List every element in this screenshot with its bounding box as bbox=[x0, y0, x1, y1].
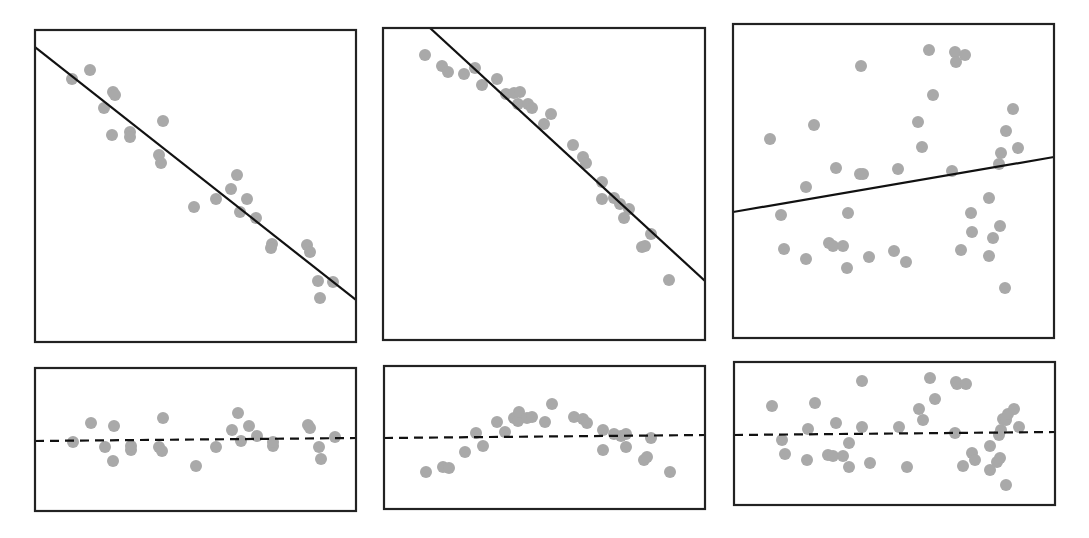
data-point bbox=[210, 441, 222, 453]
data-point bbox=[188, 201, 200, 213]
data-point bbox=[841, 262, 853, 274]
data-point bbox=[960, 378, 972, 390]
data-point bbox=[443, 462, 455, 474]
data-point bbox=[927, 89, 939, 101]
data-point bbox=[957, 460, 969, 472]
data-point bbox=[987, 232, 999, 244]
data-point bbox=[856, 375, 868, 387]
data-point bbox=[125, 440, 137, 452]
data-point bbox=[863, 251, 875, 263]
data-point bbox=[67, 436, 79, 448]
data-point bbox=[641, 451, 653, 463]
data-point bbox=[491, 416, 503, 428]
data-point bbox=[837, 240, 849, 252]
data-point bbox=[232, 407, 244, 419]
data-point bbox=[108, 420, 120, 432]
data-point bbox=[526, 411, 538, 423]
data-point bbox=[639, 240, 651, 252]
data-point bbox=[917, 414, 929, 426]
data-point bbox=[842, 207, 854, 219]
data-point bbox=[620, 428, 632, 440]
data-point bbox=[809, 397, 821, 409]
data-point bbox=[1000, 479, 1012, 491]
data-point bbox=[539, 416, 551, 428]
data-point bbox=[458, 68, 470, 80]
data-point bbox=[226, 424, 238, 436]
data-point bbox=[1007, 103, 1019, 115]
data-point bbox=[999, 282, 1011, 294]
data-point bbox=[251, 430, 263, 442]
data-point bbox=[955, 244, 967, 256]
data-point bbox=[155, 157, 167, 169]
data-point bbox=[477, 440, 489, 452]
data-point bbox=[265, 242, 277, 254]
data-point bbox=[984, 440, 996, 452]
data-point bbox=[1000, 125, 1012, 137]
data-point bbox=[916, 141, 928, 153]
data-point bbox=[775, 209, 787, 221]
data-point bbox=[597, 444, 609, 456]
data-point bbox=[764, 133, 776, 145]
data-point bbox=[304, 246, 316, 258]
data-point bbox=[312, 275, 324, 287]
data-point bbox=[313, 441, 325, 453]
data-point bbox=[241, 193, 253, 205]
data-point bbox=[1008, 403, 1020, 415]
data-point bbox=[514, 86, 526, 98]
data-point bbox=[620, 441, 632, 453]
data-point bbox=[900, 256, 912, 268]
data-point bbox=[924, 372, 936, 384]
data-point bbox=[235, 435, 247, 447]
data-point bbox=[965, 207, 977, 219]
data-point bbox=[801, 454, 813, 466]
data-point bbox=[766, 400, 778, 412]
data-point bbox=[983, 192, 995, 204]
data-point bbox=[664, 466, 676, 478]
data-point bbox=[546, 398, 558, 410]
data-point bbox=[442, 66, 454, 78]
data-point bbox=[966, 226, 978, 238]
data-point bbox=[596, 193, 608, 205]
data-point bbox=[157, 115, 169, 127]
data-point bbox=[857, 168, 869, 180]
data-point bbox=[190, 460, 202, 472]
data-point bbox=[892, 163, 904, 175]
data-point bbox=[888, 245, 900, 257]
data-point bbox=[304, 422, 316, 434]
data-point bbox=[913, 403, 925, 415]
data-point bbox=[210, 193, 222, 205]
data-point bbox=[420, 466, 432, 478]
background bbox=[0, 0, 1089, 538]
data-point bbox=[994, 452, 1006, 464]
data-point bbox=[315, 453, 327, 465]
data-point bbox=[225, 183, 237, 195]
data-point bbox=[800, 253, 812, 265]
data-point bbox=[329, 431, 341, 443]
data-point bbox=[778, 243, 790, 255]
data-point bbox=[893, 421, 905, 433]
data-point bbox=[85, 417, 97, 429]
data-point bbox=[157, 412, 169, 424]
data-point bbox=[106, 129, 118, 141]
data-point bbox=[99, 441, 111, 453]
data-point bbox=[923, 44, 935, 56]
data-point bbox=[830, 162, 842, 174]
data-point bbox=[109, 89, 121, 101]
data-point bbox=[800, 181, 812, 193]
data-point bbox=[545, 108, 557, 120]
data-point bbox=[983, 250, 995, 262]
data-point bbox=[995, 147, 1007, 159]
data-point bbox=[776, 434, 788, 446]
data-point bbox=[779, 448, 791, 460]
data-point bbox=[231, 169, 243, 181]
data-point bbox=[969, 454, 981, 466]
data-point bbox=[459, 446, 471, 458]
data-point bbox=[843, 437, 855, 449]
data-point bbox=[567, 139, 579, 151]
data-point bbox=[856, 421, 868, 433]
data-point bbox=[843, 461, 855, 473]
data-point bbox=[994, 220, 1006, 232]
data-point bbox=[491, 73, 503, 85]
data-point bbox=[124, 131, 136, 143]
data-point bbox=[901, 461, 913, 473]
